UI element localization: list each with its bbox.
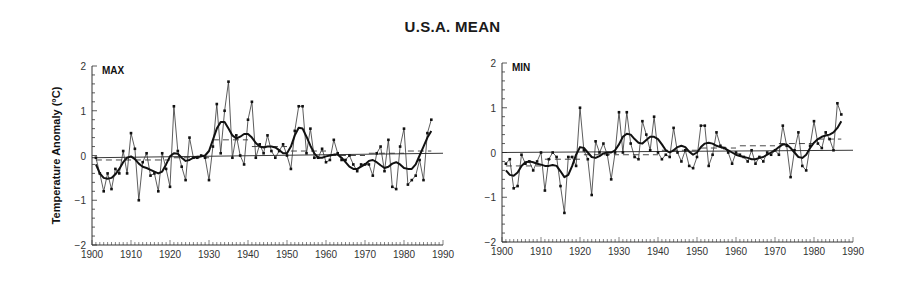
annual-data-point [114, 168, 117, 171]
annual-data-point [618, 111, 621, 114]
annual-data-point [610, 178, 613, 181]
annual-data-point [657, 151, 660, 154]
annual-data-point [824, 131, 827, 134]
annual-data-point [676, 151, 679, 154]
x-tick-label: 1920 [569, 246, 592, 257]
annual-data-point [668, 156, 671, 159]
annual-data-point [383, 170, 386, 173]
annual-data-point [212, 145, 215, 148]
annual-data-point [372, 174, 375, 177]
annual-data-point [840, 113, 843, 116]
x-tick-label: 1960 [725, 246, 748, 257]
annual-data-point [598, 151, 601, 154]
annual-data-point [231, 156, 234, 159]
annual-data-point [805, 169, 808, 172]
annual-data-point [700, 124, 703, 127]
annual-data-point [395, 188, 398, 191]
chart-canvas: −2−1012190019101920193019401950196019701… [0, 0, 905, 281]
annual-data-point [368, 163, 371, 166]
annual-data-point [626, 111, 629, 114]
annual-data-point [138, 199, 141, 202]
annual-data-point [641, 120, 644, 123]
annual-data-point [567, 156, 570, 159]
annual-data-point [704, 124, 707, 127]
y-axis-label: Temperature Anomaly (°C) [50, 86, 62, 224]
annual-data-point [551, 151, 554, 154]
annual-data-point [219, 152, 222, 155]
annual-data-point [387, 139, 390, 142]
annual-data-point [251, 101, 254, 104]
annual-data-point [696, 156, 699, 159]
annual-data-point [579, 106, 582, 109]
annual-data-point [375, 152, 378, 155]
annual-data-point [352, 163, 355, 166]
annual-data-point [247, 118, 250, 121]
x-tick-label: 1980 [803, 246, 826, 257]
annual-data-point [649, 149, 652, 152]
annual-data-point [110, 188, 113, 191]
annual-data-point [286, 154, 289, 157]
x-tick-label: 1970 [354, 249, 377, 260]
x-tick-label: 1910 [120, 249, 143, 260]
annual-data-point [606, 153, 609, 156]
panel-label: MIN [512, 62, 530, 73]
annual-data-point [520, 153, 523, 156]
x-tick-label: 1990 [432, 249, 455, 260]
annual-data-point [325, 161, 328, 164]
annual-data-point [828, 138, 831, 141]
annual-data-point [731, 162, 734, 165]
x-tick-label: 1990 [842, 246, 865, 257]
x-tick-label: 1930 [198, 249, 221, 260]
annual-data-point [555, 156, 558, 159]
annual-data-point [544, 189, 547, 192]
annual-data-point [629, 142, 632, 145]
annual-data-point [661, 158, 664, 161]
x-tick-label: 1900 [491, 246, 514, 257]
annual-data-point [391, 186, 394, 189]
annual-data-point [309, 127, 312, 130]
annual-data-point [122, 150, 125, 153]
x-tick-label: 1950 [276, 249, 299, 260]
annual-data-point [145, 152, 148, 155]
annual-data-point [301, 105, 304, 108]
annual-data-point [801, 165, 804, 168]
annual-data-point [715, 131, 718, 134]
annual-data-point [321, 147, 324, 150]
y-tick-label: −1 [75, 195, 87, 206]
annual-data-point [255, 156, 258, 159]
annual-data-point [407, 183, 410, 186]
annual-data-point [313, 156, 316, 159]
annual-series-line [96, 82, 431, 201]
annual-data-point [262, 152, 265, 155]
annual-data-point [680, 160, 683, 163]
annual-data-point [782, 124, 785, 127]
x-tick-label: 1930 [608, 246, 631, 257]
annual-data-point [173, 105, 176, 108]
x-tick-label: 1940 [647, 246, 670, 257]
annual-data-point [426, 132, 429, 135]
annual-data-point [157, 190, 160, 193]
annual-data-point [532, 169, 535, 172]
y-tick-label: 1 [80, 106, 86, 117]
annual-data-point [266, 134, 269, 137]
y-tick-label: 2 [490, 58, 496, 69]
annual-data-point [797, 131, 800, 134]
annual-data-point [430, 118, 433, 121]
annual-data-point [836, 102, 839, 105]
annual-data-point [180, 165, 183, 168]
annual-data-point [711, 153, 714, 156]
annual-data-point [587, 158, 590, 161]
annual-data-point [602, 142, 605, 145]
annual-data-point [516, 185, 519, 188]
annual-data-point [594, 140, 597, 143]
annual-data-point [821, 147, 824, 150]
min-panel: −2−1012190019101920193019401950196019701… [485, 58, 865, 257]
x-tick-label: 1920 [159, 249, 182, 260]
annual-data-point [750, 149, 753, 152]
annual-data-point [548, 158, 551, 161]
y-tick-label: 2 [80, 61, 86, 72]
annual-data-point [509, 158, 512, 161]
annual-data-point [379, 145, 382, 148]
annual-data-point [329, 159, 332, 162]
annual-data-point [754, 162, 757, 165]
